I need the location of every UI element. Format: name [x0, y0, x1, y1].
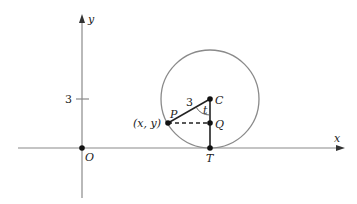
- point-P-label: P: [169, 108, 178, 121]
- point-T-label: T: [206, 152, 215, 165]
- y-axis-arrow-icon: [79, 14, 85, 23]
- angle-label: t: [203, 104, 208, 117]
- x-axis-label: x: [334, 132, 341, 145]
- point-T: [207, 145, 213, 151]
- point-origin: [79, 145, 85, 151]
- y-tick-label: 3: [65, 93, 72, 106]
- y-axis: [79, 14, 85, 198]
- point-C-label: C: [215, 94, 224, 107]
- point-Q-label: Q: [215, 118, 224, 131]
- x-axis-arrow-icon: [336, 145, 345, 151]
- point-P: [165, 120, 171, 126]
- point-C: [207, 96, 213, 102]
- origin-label: O: [85, 151, 94, 164]
- radius-length-label: 3: [186, 96, 193, 109]
- point-P-coords-label: (x, y): [133, 117, 161, 130]
- x-axis: [18, 145, 345, 151]
- point-Q: [207, 120, 213, 126]
- circle-on-axes-diagram: y x O 3 P (x, y) C Q T 3 t: [0, 0, 357, 204]
- y-axis-label: y: [87, 13, 95, 26]
